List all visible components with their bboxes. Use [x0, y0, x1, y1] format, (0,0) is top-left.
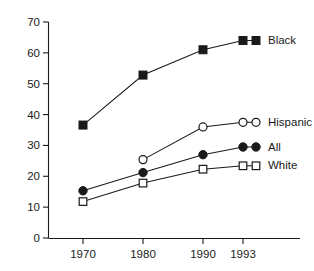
series-line-black [83, 41, 243, 126]
chart-canvas: 010203040506070 1970198019901993 BlackHi… [0, 0, 314, 271]
line-chart: 010203040506070 1970198019901993 BlackHi… [0, 0, 314, 271]
marker-all-1990 [199, 150, 207, 158]
marker-white-1993 [239, 162, 247, 170]
y-tick-label-60: 60 [27, 47, 40, 59]
marker-all-1993 [239, 143, 247, 151]
x-tick-label-group: 1970198019901993 [70, 248, 256, 260]
marker-all-1980 [139, 168, 147, 176]
series-labels-group: BlackHispanicAllWhite [268, 34, 312, 171]
marker-all-legend [252, 143, 260, 151]
marker-hispanic-1990 [199, 123, 207, 131]
series-line-all [83, 147, 243, 191]
marker-black-1990 [199, 46, 207, 54]
y-axis: 010203040506070 [27, 16, 48, 244]
x-axis: 1970198019901993 [49, 239, 301, 261]
series-lines-group [83, 41, 243, 202]
series-label-black: Black [268, 34, 296, 46]
y-tick-label-0: 0 [34, 232, 40, 244]
series-label-hispanic: Hispanic [268, 116, 312, 128]
x-tick-label-1993: 1993 [230, 248, 256, 260]
x-tick-label-1980: 1980 [130, 248, 156, 260]
marker-black-legend [252, 37, 260, 45]
y-tick-marks [43, 22, 49, 238]
marker-hispanic-1993 [239, 118, 247, 126]
marker-hispanic-legend [252, 118, 260, 126]
marker-hispanic-1980 [139, 156, 147, 164]
marker-white-1980 [139, 179, 147, 187]
marker-white-legend [252, 162, 260, 170]
y-tick-label-10: 10 [27, 201, 40, 213]
y-tick-label-group: 010203040506070 [27, 16, 40, 244]
series-markers-group [79, 37, 260, 206]
x-tick-label-1990: 1990 [190, 248, 216, 260]
marker-black-1970 [79, 121, 87, 129]
marker-all-1970 [79, 187, 87, 195]
series-line-hispanic [143, 122, 243, 159]
y-tick-label-20: 20 [27, 170, 40, 182]
y-tick-label-50: 50 [27, 78, 40, 90]
marker-white-1970 [79, 198, 87, 206]
y-tick-label-70: 70 [27, 16, 40, 28]
series-label-white: White [268, 159, 297, 171]
y-tick-label-40: 40 [27, 109, 40, 121]
series-label-all: All [268, 141, 281, 153]
marker-white-1990 [199, 165, 207, 173]
y-tick-label-30: 30 [27, 139, 40, 151]
marker-black-1980 [139, 71, 147, 79]
marker-black-1993 [239, 37, 247, 45]
x-tick-marks [83, 239, 243, 245]
x-tick-label-1970: 1970 [70, 248, 96, 260]
